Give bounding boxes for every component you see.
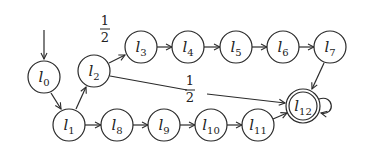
state-l1: l1	[53, 109, 85, 141]
edge-label-lower: 1 2	[185, 73, 195, 105]
state-diagram: 1 2 1 2 l0 l1 l2 l3 l4 l5 l6 l7 l	[0, 0, 366, 158]
self-loop-l12	[319, 98, 331, 113]
edge-l2-l3	[109, 55, 125, 63]
state-l7: l7	[314, 31, 346, 63]
state-l2: l2	[78, 55, 110, 87]
fraction-denominator: 2	[186, 90, 194, 105]
state-l9: l9	[148, 109, 180, 141]
edge-l7-l12	[312, 63, 324, 89]
state-l3: l3	[125, 31, 157, 63]
state-l0: l0	[28, 61, 60, 93]
state-l5: l5	[220, 31, 252, 63]
fraction-numerator: 1	[101, 13, 109, 28]
fraction-denominator: 2	[101, 30, 109, 45]
edge-l1-l2	[76, 87, 86, 109]
state-l10: l10	[195, 109, 227, 141]
edge-l11-l12	[273, 113, 287, 119]
state-l4: l4	[172, 31, 204, 63]
state-l12-accepting: l12	[286, 89, 320, 123]
state-l11: l11	[242, 109, 274, 141]
edge-l2-l12-a	[110, 76, 187, 90]
fraction-numerator: 1	[186, 73, 194, 88]
edge-l0-l1	[51, 93, 61, 109]
edge-l2-l12-b	[207, 94, 285, 103]
state-l8: l8	[101, 109, 133, 141]
state-l6: l6	[267, 31, 299, 63]
edge-label-upper: 1 2	[100, 13, 110, 45]
